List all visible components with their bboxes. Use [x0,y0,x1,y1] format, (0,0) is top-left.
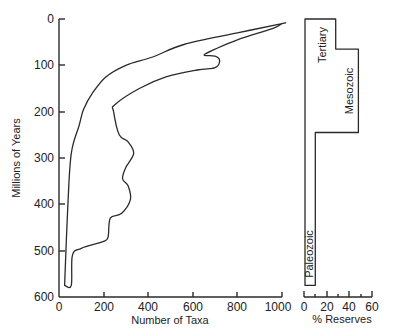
x-axis-ticks [104,292,282,297]
x-tick-label: 400 [138,300,158,314]
y-tick-label: 300 [34,151,54,165]
reserves-x-tick-label: 0 [301,300,308,314]
reserves-x-tick-label: 20 [320,300,334,314]
y-tick-label: 600 [34,290,54,304]
diversity-chart: 0 100 200 300 400 500 600 Millions of Ye… [10,12,292,326]
x-tick-label: 1000 [265,300,292,314]
y-tick-label: 100 [34,58,54,72]
y-tick-label: 400 [34,197,54,211]
y-tick-label: 500 [34,244,54,258]
x-tick-label: 200 [94,300,114,314]
period-label-paleozoic: Paleozoic [303,230,315,278]
reserves-x-tick-label: 40 [342,300,356,314]
x-tick-label: 800 [227,300,247,314]
figure: 0 100 200 300 400 500 600 Millions of Ye… [0,0,394,332]
reserves-x-axis-title: % Reserves [312,313,372,325]
y-tick-label: 200 [34,105,54,119]
y-tick-label: 0 [47,12,54,26]
y-axis-title: Millions of Years [10,118,22,198]
period-label-mesozoic: Mesozoic [343,67,355,114]
diversity-envelope [65,23,286,288]
y-axis-ticks [59,19,65,251]
x-tick-label: 600 [183,300,203,314]
reserves-chart: Tertiary Mesozoic Paleozoic 0 20 40 60 %… [301,19,379,325]
x-axis-title: Number of Taxa [131,314,209,326]
reserves-x-tick-label: 60 [365,300,379,314]
x-tick-label: 0 [56,300,63,314]
period-label-tertiary: Tertiary [316,26,328,63]
reserves-x-axis-ticks [304,291,372,297]
